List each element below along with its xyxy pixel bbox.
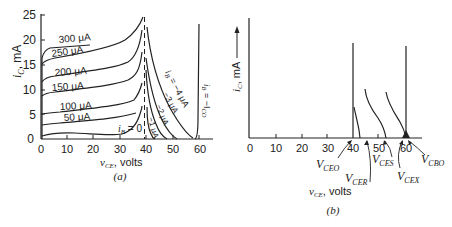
a-y-tick-25: 25 (23, 8, 37, 22)
label-ico: iB = −ICO (201, 84, 212, 118)
b-vcex-curve (386, 92, 406, 138)
label-250ua: 250 μA (51, 44, 84, 59)
b-x-tick-0: 0 (247, 142, 253, 154)
figure-a: 0 5 10 15 20 25 0 10 20 30 40 50 60 iC, … (10, 8, 213, 183)
a-x-tick-0: 0 (38, 143, 44, 155)
svg-text:iC, mA: iC, mA (230, 61, 244, 92)
breakdown-figure: 0 5 10 15 20 25 0 10 20 30 40 50 60 iC, … (0, 0, 452, 227)
svg-text:iC, mA: iC, mA (10, 45, 26, 78)
a-x-tick-50: 50 (167, 143, 179, 155)
a-y-tick-20: 20 (23, 33, 37, 47)
a-y-axis-label: iC, mA (10, 45, 26, 78)
b-curves (353, 43, 406, 138)
b-vces-curve (365, 89, 386, 138)
a-y-tick-5: 5 (29, 108, 36, 122)
arrow-up-icon (235, 26, 240, 33)
a-x-tick-40: 40 (140, 143, 152, 155)
label-50ua: 50 μA (64, 111, 91, 123)
a-x-tick-60: 60 (194, 143, 206, 155)
figure-b: 0 10 20 30 40 50 60 iC, mA (230, 18, 445, 217)
label-150ua: 150 μA (51, 80, 84, 93)
label-300ua: 300 μA (58, 31, 91, 45)
label-ib0: iB = 0 (118, 123, 142, 136)
b-y-axis-label: iC, mA (230, 61, 244, 92)
label-vceo: VCEO (316, 157, 340, 173)
label-200ua: 200 μA (54, 65, 87, 78)
b-vcbo-marker (402, 130, 410, 138)
a-y-tick-10: 10 (23, 83, 37, 97)
label-ibm1: −1 μA (146, 116, 160, 140)
a-caption: (a) (114, 170, 127, 183)
a-y-tick-0: 0 (27, 132, 34, 146)
label-vcex: VCEX (397, 169, 421, 185)
a-x-axis-label: vCE, volts (100, 156, 143, 170)
a-x-tick-20: 20 (87, 143, 99, 155)
b-x-tick-20: 20 (296, 142, 308, 154)
b-x-tick-10: 10 (270, 142, 282, 154)
b-x-axis-label: vCE, volts (309, 185, 352, 199)
a-x-tick-10: 10 (61, 143, 73, 155)
b-caption: (b) (327, 204, 340, 217)
b-x-tick-30: 30 (322, 142, 334, 154)
b-vcer-curve-a (354, 107, 360, 138)
label-vcbo: VCBO (421, 152, 445, 168)
a-x-tick-30: 30 (114, 143, 126, 155)
label-vces: VCES (372, 152, 394, 168)
curve-ico (195, 24, 199, 139)
